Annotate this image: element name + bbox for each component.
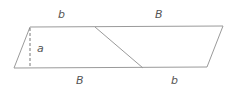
label-bottom-b: b: [171, 74, 178, 87]
label-top-b: b: [58, 8, 65, 21]
label-bottom-B: B: [76, 74, 84, 87]
label-top-B: B: [155, 8, 163, 21]
parallelogram-diagram: b B a B b: [0, 0, 230, 89]
label-height-a: a: [37, 42, 44, 55]
diagonal-divider: [95, 27, 143, 68]
